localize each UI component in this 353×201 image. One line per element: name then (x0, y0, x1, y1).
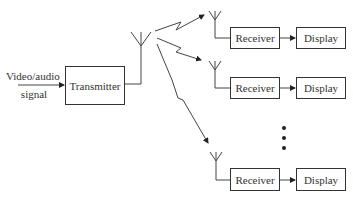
receiver-label: Receiver (235, 82, 274, 94)
input-label-line2: signal (14, 88, 54, 100)
display-box-1: Display (296, 27, 346, 49)
receiver-label: Receiver (235, 32, 274, 44)
display-box-2: Display (296, 77, 346, 99)
input-label-line1: Video/audio (6, 70, 58, 82)
receiver-box-3: Receiver (230, 168, 280, 191)
receiver-label: Receiver (235, 174, 274, 186)
display-box-3: Display (296, 168, 346, 191)
display-label: Display (304, 32, 338, 44)
receiver-box-1: Receiver (230, 27, 280, 49)
transmitter-box: Transmitter (65, 66, 125, 105)
receiver-box-2: Receiver (230, 77, 280, 99)
transmitter-label: Transmitter (70, 80, 121, 92)
display-label: Display (304, 82, 338, 94)
ellipsis-dots (282, 126, 286, 150)
display-label: Display (304, 174, 338, 186)
